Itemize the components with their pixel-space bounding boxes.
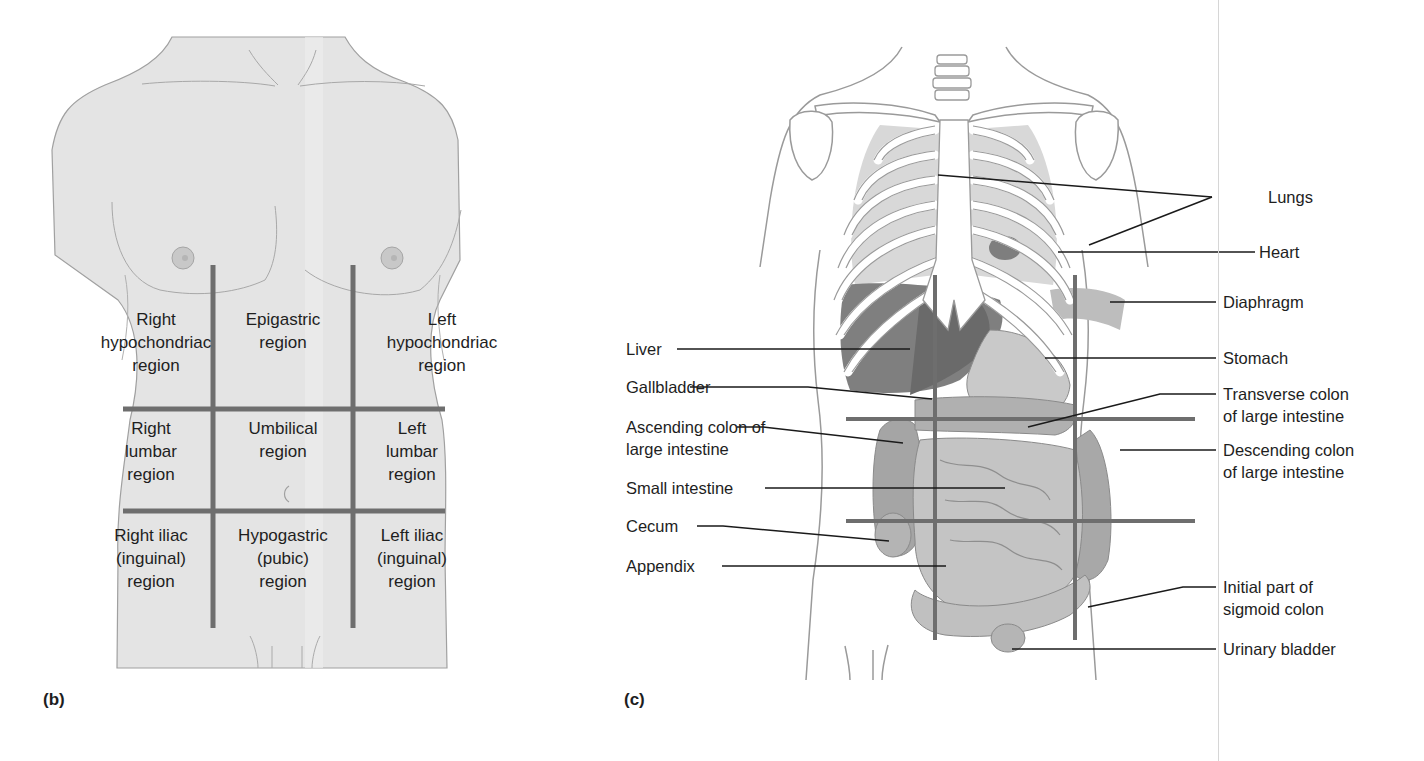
panel-b-tag: (b) [43,690,65,710]
region-left-lumbar: Left lumbar region [352,417,472,486]
region-right-lumbar: Right lumbar region [91,417,211,486]
panel-c-tag: (c) [624,690,645,710]
region-right-hypochondriac: Right hypochondriac region [96,308,216,377]
region-epigastric: Epigastric region [223,308,343,354]
label-gallbladder: Gallbladder [626,376,710,398]
leader-cecum [697,526,889,541]
cervical-spine [933,55,971,100]
label-sigmoid-colon: Initial part of sigmoid colon [1223,576,1324,620]
region-umbilical: Umbilical region [223,417,343,463]
region-left-hypochondriac: Left hypochondriac region [372,308,512,377]
label-lungs: Lungs [1268,186,1313,208]
panel-c-illustration [0,0,1424,761]
label-cecum: Cecum [626,515,678,537]
label-liver: Liver [626,338,662,360]
label-stomach: Stomach [1223,347,1288,369]
label-descending-colon: Descending colon of large intestine [1223,439,1354,483]
figure: Right hypochondriac region Epigastric re… [0,0,1424,761]
label-diaphragm: Diaphragm [1223,291,1304,313]
label-transverse-colon: Transverse colon of large intestine [1223,383,1349,427]
label-appendix: Appendix [626,555,695,577]
label-urinary-bladder: Urinary bladder [1223,638,1336,660]
page-gutter-rule [1218,0,1219,761]
label-ascending-colon: Ascending colon of large intestine [626,416,765,460]
region-right-iliac: Right iliac (inguinal) region [91,524,211,593]
small-intestine [913,438,1082,614]
label-small-intestine: Small intestine [626,477,733,499]
leader-lungs-b [1089,197,1212,245]
region-left-iliac: Left iliac (inguinal) region [352,524,472,593]
urinary-bladder [991,624,1025,652]
leader-sigmoid [1088,587,1216,607]
label-heart: Heart [1259,241,1299,263]
transverse-colon [915,397,1076,435]
region-hypogastric: Hypogastric (pubic) region [223,524,343,593]
